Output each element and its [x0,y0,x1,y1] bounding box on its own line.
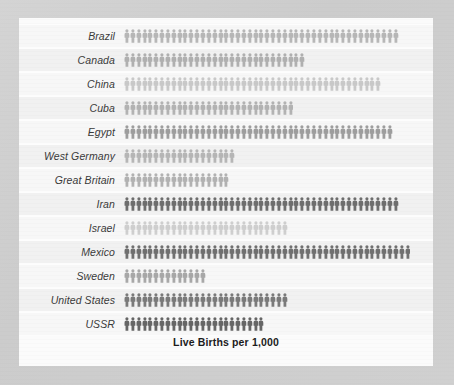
row-figures [123,217,433,239]
row-label-cuba: Cuba [19,103,123,114]
pictogram-row: Great Britain [19,168,433,192]
row-label-ussr: USSR [19,319,123,330]
row-label-sweden: Sweden [19,271,123,282]
row-figures [123,73,433,95]
pictogram-row: Iran [19,192,433,216]
pictogram-row: Mexico [19,240,433,264]
pictogram-rows: BrazilCanadaChinaCubaEgyptWest GermanyGr… [19,24,433,336]
row-label-egypt: Egypt [19,127,123,138]
row-figures [123,49,433,71]
pictogram-row: Sweden [19,264,433,288]
row-figures [123,241,433,263]
pictogram-row: USSR [19,312,433,336]
person-icon [223,173,229,187]
chart-panel: BrazilCanadaChinaCubaEgyptWest GermanyGr… [19,18,433,366]
person-icon [393,197,399,211]
person-icon [405,245,411,259]
pictogram-row: West Germany [19,144,433,168]
row-label-west-germany: West Germany [19,151,123,162]
person-icon [258,317,264,331]
row-figures [123,169,433,191]
row-label-china: China [19,79,123,90]
person-icon [229,149,235,163]
person-icon [393,29,399,43]
row-label-canada: Canada [19,55,123,66]
chart-frame: BrazilCanadaChinaCubaEgyptWest GermanyGr… [0,0,454,385]
row-figures [123,121,433,143]
pictogram-row: Brazil [19,24,433,48]
pictogram-row: Egypt [19,120,433,144]
person-icon [387,125,393,139]
person-icon [299,53,305,67]
row-figures [123,25,433,47]
row-label-mexico: Mexico [19,247,123,258]
row-figures [123,289,433,311]
row-label-brazil: Brazil [19,31,123,42]
pictogram-row: Canada [19,48,433,72]
pictogram-row: China [19,72,433,96]
row-figures [123,97,433,119]
row-figures [123,193,433,215]
row-label-israel: Israel [19,223,123,234]
person-icon [282,293,288,307]
row-label-great-britain: Great Britain [19,175,123,186]
pictogram-row: Israel [19,216,433,240]
person-icon [282,221,288,235]
row-figures [123,313,433,335]
row-figures [123,265,433,287]
pictogram-row: Cuba [19,96,433,120]
row-label-iran: Iran [19,199,123,210]
person-icon [375,77,381,91]
row-label-united-states: United States [19,295,123,306]
person-icon [288,101,294,115]
chart-title: Live Births per 1,000 [19,336,433,348]
pictogram-row: United States [19,288,433,312]
person-icon [200,269,206,283]
row-figures [123,145,433,167]
